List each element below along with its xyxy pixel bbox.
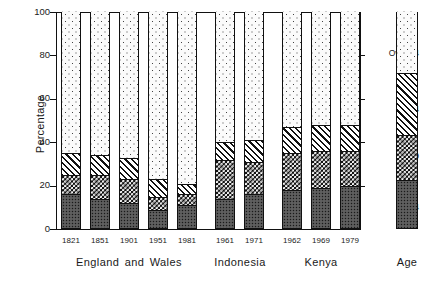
bar-1851: [90, 12, 110, 229]
bar-1962: [282, 12, 302, 229]
y-tick-label-0: 0: [24, 224, 50, 234]
y-tick-label-40: 40: [24, 137, 50, 147]
bar-1961: [215, 12, 235, 229]
group-label-kenya: Kenya: [241, 256, 401, 268]
x-axis-line: [56, 229, 361, 230]
x-tick-label-1979: 1979: [330, 236, 370, 245]
bar-1821: [61, 12, 81, 229]
legend-title: Age: [378, 256, 434, 268]
legend-tickmark-2: [360, 99, 365, 100]
x-tick-label-1971: 1971: [234, 236, 274, 245]
y-tick-label-20: 20: [24, 180, 50, 190]
legend-tickmark-4: [360, 186, 365, 187]
plot-area: [57, 12, 345, 229]
bar-1971: [244, 12, 264, 229]
population-age-structure-chart: Percentage 100 80 60 40 20 0: [0, 0, 434, 287]
bar-1981: [177, 12, 197, 229]
bar-1901: [119, 12, 139, 229]
y-tick-label-100: 100: [24, 7, 50, 17]
legend-tickmark-3: [360, 142, 365, 143]
bar-1969: [311, 12, 331, 229]
y-axis-ticks: 100 80 60 40 20 0: [20, 0, 50, 287]
y-tick-label-80: 80: [24, 50, 50, 60]
y-tick-label-60: 60: [24, 93, 50, 103]
legend-key-bar: [396, 12, 418, 229]
legend-tickmark-1: [360, 55, 365, 56]
bar-1951: [148, 12, 168, 229]
bar-1979: [340, 12, 360, 229]
x-tick-label-1981: 1981: [167, 236, 207, 245]
legend-axis-line: [360, 12, 361, 229]
